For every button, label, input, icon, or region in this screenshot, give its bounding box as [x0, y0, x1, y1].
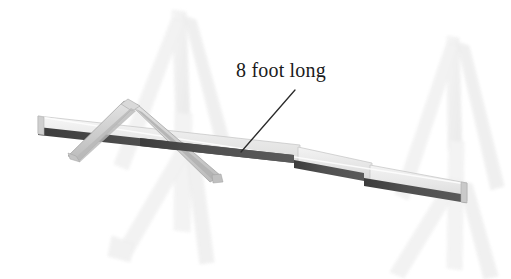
long-board-right-end [461, 182, 467, 203]
v-board-right-tip [212, 174, 223, 183]
length-annotation-label: 8 foot long [236, 58, 326, 82]
board-illustration [0, 0, 511, 279]
illustration-canvas: 8 foot long [0, 0, 511, 279]
long-board-left-end [38, 116, 44, 135]
paper-background [0, 0, 511, 279]
